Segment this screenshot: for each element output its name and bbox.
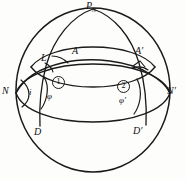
- label-point-L: L: [41, 53, 47, 63]
- label-point-N: N: [2, 86, 9, 96]
- label-point-A: A: [72, 46, 78, 56]
- label-pole: PN: [86, 1, 96, 13]
- label-point-D: D: [34, 127, 41, 137]
- label-angle-i: i: [29, 88, 32, 97]
- label-point-N-prime: N′: [167, 86, 176, 96]
- label-point-D-prime: D′: [133, 126, 142, 136]
- diagram-canvas: [0, 0, 186, 180]
- label-point-A-prime: A′: [135, 46, 143, 56]
- sphere-diagram: PN L A A′ N N′ D D′ i φ φ′ 1 2: [0, 0, 186, 180]
- sphere-outline: [16, 8, 170, 172]
- angle-arc-phi-prime: [134, 79, 140, 114]
- marker-two: 2: [117, 80, 130, 93]
- oblique-great-circle: [16, 60, 170, 93]
- marker-one: 1: [52, 76, 65, 89]
- equator-circle: [16, 64, 170, 93]
- label-angle-phi: φ: [47, 92, 52, 101]
- label-angle-phi-prime: φ′: [119, 96, 126, 105]
